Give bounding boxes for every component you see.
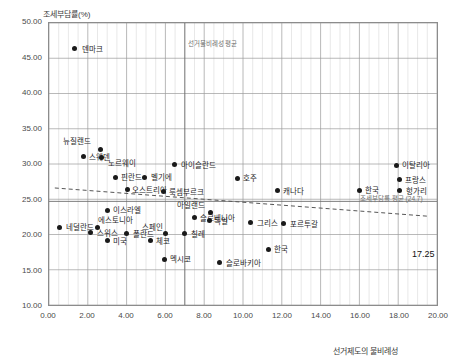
data-point	[161, 189, 166, 194]
data-point-label: 호주	[243, 175, 257, 183]
data-point	[397, 177, 402, 182]
data-point-label: 폴란드	[133, 231, 154, 239]
data-point-label: 핀란드	[121, 174, 142, 182]
x-axis-title: 선거제도의 불비례성	[333, 345, 398, 356]
data-point-label: 노르웨이	[108, 160, 136, 168]
x-tick-label: 4.00	[106, 311, 146, 320]
data-point	[266, 247, 271, 252]
x-tick-label: 14.00	[301, 311, 341, 320]
y-axis-title: 조세부담률(%)	[43, 8, 90, 19]
x-tick-label: 0.00	[28, 311, 68, 320]
data-point-label: 에스토니아	[98, 217, 133, 225]
data-point-label: 멕시코	[170, 256, 191, 264]
data-point	[98, 147, 103, 152]
data-point	[162, 257, 167, 262]
data-point-label: 칠레	[191, 231, 205, 239]
data-point	[235, 176, 240, 181]
y-tick-label: 20.00	[0, 230, 42, 239]
value-callout: 17.25	[412, 249, 435, 259]
y-tick-label: 10.00	[0, 301, 42, 310]
y-tick-label: 30.00	[0, 159, 42, 168]
data-point-label: 벨기에	[151, 174, 172, 182]
data-point	[57, 225, 62, 230]
x-tick-label: 8.00	[184, 311, 224, 320]
data-point	[113, 175, 118, 180]
data-point-label: 독일	[214, 218, 228, 226]
data-point	[105, 208, 110, 213]
data-point-label: 슬로바키아	[226, 260, 261, 268]
x-tick-label: 12.00	[262, 311, 302, 320]
data-point-label: 프랑스	[405, 177, 426, 185]
y-tick-label: 50.00	[0, 17, 42, 26]
scatter-chart: 조세부담률(%) 선거제도의 불비례성 10.0015.0020.0025.00…	[0, 0, 449, 362]
data-point	[142, 175, 147, 180]
data-point-label: 덴마크	[82, 46, 103, 54]
data-point-label: 아이슬란드	[181, 162, 216, 170]
data-point-label: 그리스	[257, 220, 278, 228]
data-point-label: 캐나다	[283, 188, 304, 196]
y-mean-annotation: 조세부담률 평균 (24.7)	[360, 193, 423, 203]
y-tick-label: 45.00	[0, 53, 42, 62]
data-point-label: 체코	[156, 238, 170, 246]
data-point-label: 포르투갈	[290, 221, 318, 229]
data-point-label: 스페인	[142, 224, 163, 232]
y-tick-label: 25.00	[0, 195, 42, 204]
y-tick-label: 35.00	[0, 124, 42, 133]
data-point-label: 룩셈부르크	[169, 189, 204, 197]
data-point-label: 이스라엘	[113, 207, 141, 215]
x-tick-label: 16.00	[340, 311, 380, 320]
data-point-label: 미국	[113, 238, 127, 246]
x-tick-label: 18.00	[379, 311, 419, 320]
y-tick-label: 15.00	[0, 266, 42, 275]
data-point	[394, 163, 399, 168]
x-tick-label: 20.00	[418, 311, 449, 320]
y-tick-label: 40.00	[0, 88, 42, 97]
x-mean-annotation: 선거불비례성 평균	[188, 38, 238, 48]
x-tick-label: 2.00	[67, 311, 107, 320]
data-point-label: 아일랜드	[177, 202, 205, 210]
data-point-label: 이탈리아	[402, 162, 430, 170]
data-point-label: 뉴질랜드	[63, 138, 91, 146]
x-tick-label: 6.00	[145, 311, 185, 320]
x-tick-label: 10.00	[223, 311, 263, 320]
data-point-label: 한국	[274, 246, 288, 254]
